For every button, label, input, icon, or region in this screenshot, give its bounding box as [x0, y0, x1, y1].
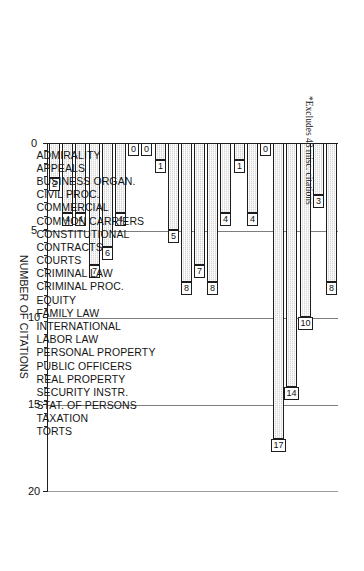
bar-value-label: 1	[234, 160, 245, 173]
citations-bar-chart: 8310141704148785100467442 ADMIRALITYAPPE…	[0, 0, 364, 571]
category-label: CRIMINAL PROC.	[37, 281, 124, 292]
bar	[220, 143, 231, 213]
bar	[247, 143, 258, 213]
bar	[234, 143, 245, 160]
bar-value-label: 6	[102, 247, 113, 260]
bar	[155, 143, 166, 160]
bar-row: 1	[155, 143, 166, 491]
bar-value-label: 0	[260, 143, 271, 156]
bar-value-label: 1	[155, 160, 166, 173]
bar-value-label: 8	[326, 282, 337, 295]
category-label: STAT. OF PERSONS	[37, 400, 137, 411]
category-label: PUBLIC OFFICERS	[37, 360, 132, 371]
value-tick	[43, 491, 48, 492]
value-tick	[43, 230, 48, 231]
bar	[168, 143, 179, 230]
bar-value-label: 7	[194, 265, 205, 278]
bar-row: 8	[207, 143, 218, 491]
bar	[207, 143, 218, 282]
bar-value-label: 8	[181, 282, 192, 295]
value-tick	[43, 143, 48, 144]
bar	[326, 143, 337, 282]
bar-value-label: 0	[141, 143, 152, 156]
gridline-20	[48, 491, 338, 492]
bar-value-label: 0	[128, 143, 139, 156]
bar-row: 4	[247, 143, 258, 491]
bar-row: 7	[194, 143, 205, 491]
bar-value-label: 14	[284, 387, 299, 400]
bar	[194, 143, 205, 265]
bar	[181, 143, 192, 282]
category-label: COMMON CARRIERS	[37, 215, 145, 226]
category-label: CONSTITUTIONAL	[37, 228, 130, 239]
category-label: PERSONAL PROPERTY	[37, 347, 156, 358]
bar-row: 5	[168, 143, 179, 491]
bar-row: 17	[273, 143, 284, 491]
category-label: REAL PROPERTY	[37, 373, 126, 384]
bar-row: 14	[286, 143, 297, 491]
bar-row: 0	[141, 143, 152, 491]
bar-value-label: 4	[220, 213, 231, 226]
bar-value-label: 5	[168, 230, 179, 243]
bar-row: 1	[234, 143, 245, 491]
category-label: INTERNATIONAL	[37, 320, 122, 331]
bar-value-label: 3	[313, 195, 324, 208]
category-label: SECURITY INSTR.	[37, 386, 129, 397]
bar-row: 4	[220, 143, 231, 491]
bar	[313, 143, 324, 195]
bar-row: 8	[326, 143, 337, 491]
bar-row: 6	[102, 143, 113, 491]
bar-value-label: 8	[207, 282, 218, 295]
bar-value-label: 10	[298, 317, 313, 330]
value-axis-title: NUMBER OF CITATIONS	[18, 143, 30, 491]
bar-row: 3	[313, 143, 324, 491]
bar-value-label: 4	[247, 213, 258, 226]
footnote-text: *Excludes 43 misc. citations	[304, 96, 314, 205]
bar	[286, 143, 297, 387]
bar-value-label: 17	[271, 439, 286, 452]
bar	[273, 143, 284, 439]
value-tick	[43, 317, 48, 318]
bar-row: 0	[128, 143, 139, 491]
value-tick	[43, 404, 48, 405]
bar-row: 4	[115, 143, 126, 491]
bar-row: 0	[260, 143, 271, 491]
chart-figure: 8310141704148785100467442 ADMIRALITYAPPE…	[12, 25, 352, 545]
category-label: BUSINESS ORGAN.	[37, 175, 136, 186]
bar-row: 8	[181, 143, 192, 491]
